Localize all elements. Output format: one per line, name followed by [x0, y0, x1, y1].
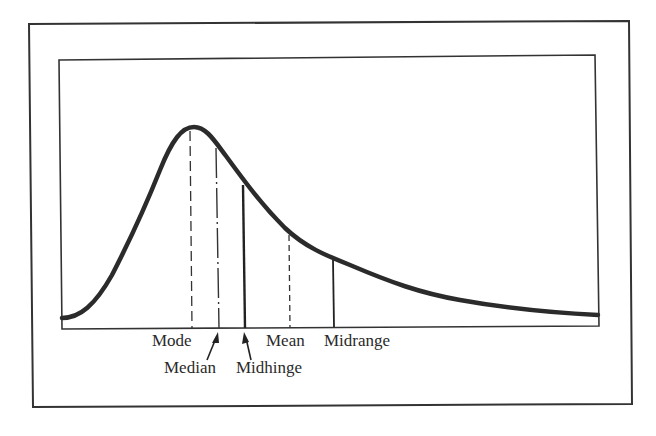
- mode-label: Mode: [152, 331, 192, 350]
- midrange-line: [333, 260, 334, 327]
- median-arrow-icon: [207, 332, 219, 360]
- mean-label: Mean: [266, 331, 305, 350]
- skewed-distribution-diagram: Mode Mean Midrange Median Midhinge: [0, 0, 656, 436]
- mode-line: [190, 131, 192, 328]
- distribution-curve: [62, 127, 598, 318]
- midhinge-line: [243, 185, 245, 328]
- median-line: [216, 148, 219, 328]
- midhinge-label: Midhinge: [236, 358, 302, 377]
- mean-line: [289, 235, 290, 328]
- median-label: Median: [164, 358, 216, 377]
- midrange-label: Midrange: [324, 331, 390, 350]
- midhinge-arrow-icon: [242, 332, 251, 360]
- plot-frame: [59, 55, 599, 329]
